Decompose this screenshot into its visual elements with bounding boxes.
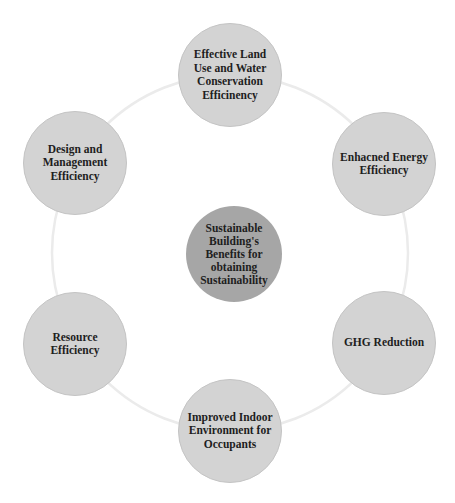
node-ghg-reduction: GHG Reduction [332, 291, 436, 395]
node-indoor-environment: Improved Indoor Environment for Occupant… [178, 379, 282, 483]
node-label: Design and Management Efficiency [38, 143, 112, 184]
node-label: Resource Efficiency [40, 331, 110, 358]
node-resource-efficiency: Resource Efficiency [23, 292, 127, 396]
node-land-water-efficiency: Effective Land Use and Water Conservatio… [178, 23, 282, 127]
center-node-label: Sustainable Building's Benefits for obta… [192, 222, 276, 287]
node-label: Enhacned Energy Efficiency [336, 151, 432, 178]
node-design-management-efficiency: Design and Management Efficiency [23, 111, 127, 215]
node-label: Effective Land Use and Water Conservatio… [188, 48, 272, 102]
node-energy-efficiency: Enhacned Energy Efficiency [332, 112, 436, 216]
node-label: Improved Indoor Environment for Occupant… [185, 411, 275, 452]
sustainability-benefits-diagram: Sustainable Building's Benefits for obta… [0, 0, 455, 503]
center-node: Sustainable Building's Benefits for obta… [186, 206, 282, 302]
node-label: GHG Reduction [336, 336, 432, 350]
